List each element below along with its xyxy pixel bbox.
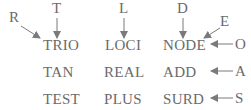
word-node: NODE xyxy=(163,38,206,53)
word-loci: LOCI xyxy=(105,38,141,53)
word-tan: TAN xyxy=(43,65,74,80)
letter-a: A xyxy=(235,64,246,79)
letter-s: S xyxy=(235,91,243,106)
letter-t: T xyxy=(52,1,61,16)
word-add: ADD xyxy=(163,65,196,80)
word-real: REAL xyxy=(104,65,144,80)
letter-d: D xyxy=(177,1,188,16)
letter-o: O xyxy=(235,37,246,52)
letter-l: L xyxy=(119,1,128,16)
letter-r: R xyxy=(9,10,19,25)
arrow-e-to-node xyxy=(204,28,220,38)
word-plus: PLUS xyxy=(104,92,142,107)
word-surd: SURD xyxy=(163,92,204,107)
letter-e: E xyxy=(220,14,229,29)
word-test: TEST xyxy=(43,92,80,107)
word-trio: TRIO xyxy=(43,38,79,53)
arrow-r-to-trio xyxy=(21,26,40,38)
